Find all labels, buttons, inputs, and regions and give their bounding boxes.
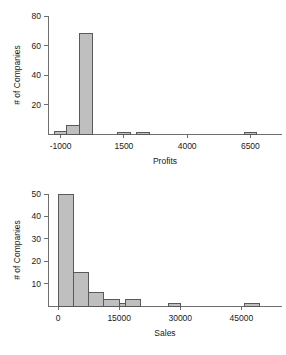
y-tick-label: 40: [32, 70, 42, 80]
histogram-bar: [118, 133, 131, 134]
sales-plot-area: 10203040500150003000045000Sales# of Comp…: [0, 178, 286, 355]
x-tick-label: 30000: [168, 313, 192, 323]
histogram-bar: [89, 293, 104, 306]
histogram-bar: [119, 304, 125, 306]
x-tick-label: 4000: [178, 141, 197, 151]
histogram-bar: [58, 194, 73, 306]
y-tick-label: 80: [32, 11, 42, 21]
y-tick-label: 40: [32, 211, 42, 221]
y-axis-title: # of Companies: [12, 45, 22, 105]
x-tick-label: 45000: [229, 313, 253, 323]
y-tick-label: 10: [32, 279, 42, 289]
x-tick-label: 6500: [241, 141, 260, 151]
histogram-bar: [67, 125, 80, 134]
histogram-bar: [125, 299, 140, 306]
y-tick-label: 60: [32, 41, 42, 51]
y-axis-title: # of Companies: [12, 220, 22, 280]
y-tick-label: 20: [32, 100, 42, 110]
x-tick-label: 1500: [114, 141, 133, 151]
y-tick-label: 50: [32, 189, 42, 199]
histogram-bar: [104, 299, 119, 306]
x-tick-label: 0: [56, 313, 61, 323]
histogram-bar: [137, 133, 150, 134]
histogram-figure: 20406080-1000150040006500Profits# of Com…: [0, 0, 286, 355]
histogram-bar: [73, 272, 88, 306]
histogram-bar: [168, 304, 180, 306]
x-tick-label: 15000: [107, 313, 131, 323]
chart-sales: 10203040500150003000045000Sales# of Comp…: [0, 178, 286, 355]
x-axis-title: Profits: [153, 156, 177, 166]
histogram-bar: [54, 131, 67, 134]
histogram-bar: [244, 304, 259, 306]
histogram-bar: [80, 34, 93, 134]
x-axis-title: Sales: [154, 328, 175, 338]
histogram-bar: [244, 133, 257, 134]
chart-profits: 20406080-1000150040006500Profits# of Com…: [0, 0, 286, 178]
y-tick-label: 30: [32, 234, 42, 244]
y-tick-label: 20: [32, 256, 42, 266]
x-tick-label: -1000: [50, 141, 72, 151]
profits-plot-area: 20406080-1000150040006500Profits# of Com…: [0, 0, 286, 178]
